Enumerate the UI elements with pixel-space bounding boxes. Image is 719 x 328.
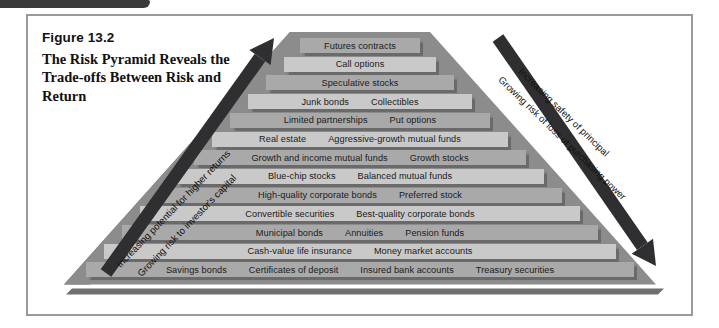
pyramid-row-text: Call options [336,59,385,69]
figure-page: Figure 13.2 The Risk Pyramid Reveals the… [0,0,719,328]
pyramid-row-text: Futures contracts [324,41,396,51]
pyramid-row-item: Limited partnerships [284,115,368,125]
pyramid-row-text: Savings bondsCertificates of depositInsu… [166,265,554,275]
figure-caption: Figure 13.2 The Risk Pyramid Reveals the… [42,30,252,105]
pyramid-row-text: Convertible securitiesBest-quality corpo… [245,209,474,219]
pyramid-row-item: Blue-chip stocks [268,171,336,181]
pyramid-row-item: Savings bonds [166,265,227,275]
pyramid-row[interactable]: Growth and income mutual fundsGrowth sto… [194,150,526,165]
pyramid-row-item: Junk bonds [301,97,349,107]
pyramid-row[interactable]: Limited partnershipsPut options [230,113,490,128]
pyramid-row-item: Convertible securities [245,209,334,219]
pyramid-row[interactable]: Call options [284,57,436,72]
pyramid-row-item: Call options [336,59,385,69]
pyramid-row-text: Limited partnershipsPut options [284,115,436,125]
pyramid-row[interactable]: Real estateAggressive-growth mutual fund… [212,132,508,147]
pyramid-row-item: Futures contracts [324,41,396,51]
pyramid-row-item: Municipal bonds [256,228,323,238]
figure-frame: Figure 13.2 The Risk Pyramid Reveals the… [26,14,693,316]
pyramid-row-item: Real estate [259,134,306,144]
pyramid-row-text: Cash-value life insuranceMoney market ac… [247,246,472,256]
figure-number: Figure 13.2 [42,30,252,45]
pyramid-row-item: Growth and income mutual funds [251,153,387,163]
pyramid-row-text: Growth and income mutual fundsGrowth sto… [251,153,468,163]
pyramid-row-text: Junk bondsCollectibles [301,97,418,107]
pyramid-row-text: Blue-chip stocksBalanced mutual funds [268,171,452,181]
pyramid-row-item: Speculative stocks [322,78,399,88]
pyramid-row-text: Speculative stocks [322,78,399,88]
pyramid-row-item: Annuities [345,228,383,238]
pyramid-row-item: Treasury securities [476,265,554,275]
pyramid-row-item: Preferred stock [399,190,462,200]
pyramid-row-text: High-quality corporate bondsPreferred st… [258,190,462,200]
pyramid-row-text: Municipal bondsAnnuitiesPension funds [256,228,464,238]
pyramid-row-item: Money market accounts [374,246,473,256]
pyramid-row[interactable]: Savings bondsCertificates of depositInsu… [86,262,634,277]
figure-title: The Risk Pyramid Reveals the Trade-offs … [42,50,252,105]
pyramid-row-item: Cash-value life insurance [247,246,351,256]
pyramid-row-item: Balanced mutual funds [358,171,453,181]
pyramid-base-strip [66,288,664,294]
pyramid-row-item: Best-quality corporate bonds [356,209,474,219]
pyramid-row-item: High-quality corporate bonds [258,190,377,200]
pyramid-row-item: Put options [390,115,437,125]
top-tab-bar [0,0,150,8]
pyramid-row[interactable]: Speculative stocks [266,75,454,90]
pyramid-row-item: Collectibles [371,97,419,107]
pyramid-row-item: Insured bank accounts [360,265,454,275]
pyramid-row-text: Real estateAggressive-growth mutual fund… [259,134,461,144]
pyramid-row[interactable]: Junk bondsCollectibles [248,94,472,109]
pyramid-row[interactable]: Cash-value life insuranceMoney market ac… [104,244,616,259]
pyramid-row-item: Growth stocks [410,153,469,163]
pyramid-row[interactable]: Futures contracts [300,38,420,53]
pyramid-row[interactable]: Municipal bondsAnnuitiesPension funds [122,225,598,240]
pyramid-row-item: Certificates of deposit [249,265,339,275]
pyramid-row-item: Pension funds [405,228,464,238]
pyramid-row-item: Aggressive-growth mutual funds [328,134,461,144]
